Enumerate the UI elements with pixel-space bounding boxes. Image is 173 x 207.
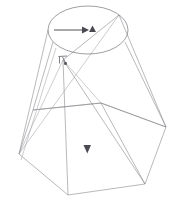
apex-node-square [64, 62, 67, 65]
horizontal-flow-arrow [54, 27, 89, 34]
frustum-body [19, 15, 166, 195]
edge-left-converge-a [19, 60, 63, 154]
upward-cone-glyph [89, 26, 96, 33]
edge-apex-to-bottom-right [63, 60, 145, 184]
edge-left-converge-b [21, 48, 56, 160]
edge-apex-to-bottom-front [63, 60, 68, 195]
edge-right-upper [119, 15, 166, 127]
edge-rim-to-bottom-right [101, 103, 145, 184]
figure-canvas [0, 0, 173, 207]
downward-cone-marker [84, 145, 92, 154]
arrow-head [82, 27, 89, 34]
upward-cone-marker [89, 26, 96, 33]
apex-bracket-top [59, 56, 68, 57]
edge-left-outer [19, 30, 48, 154]
edge-node-to-apex [63, 15, 119, 60]
bottom-hexagon [19, 103, 166, 195]
wireframe-diagram [0, 0, 173, 207]
edge-node-to-left [19, 15, 119, 154]
